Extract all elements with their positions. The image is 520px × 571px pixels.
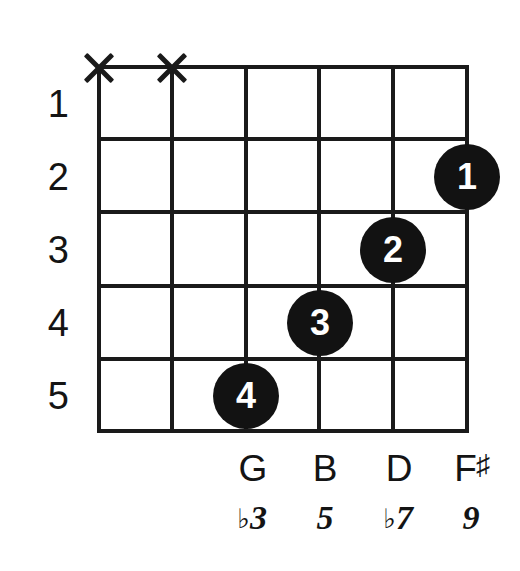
fret-number-3: 3 — [48, 231, 69, 269]
note-letter: B — [313, 448, 338, 489]
fret-line-4 — [97, 357, 469, 361]
interval-string-6: 9 — [463, 501, 480, 535]
interval-number: 7 — [396, 499, 413, 536]
fret-line-nut — [97, 65, 469, 69]
finger-dot-4[interactable]: 4 — [213, 363, 279, 429]
fret-number-1: 1 — [48, 85, 69, 123]
mute-marker-string-1 — [82, 51, 116, 85]
fret-number-4: 4 — [48, 304, 69, 342]
flat-icon: ♭ — [383, 503, 396, 534]
finger-dot-label: 1 — [457, 159, 477, 195]
note-name-string-6: F♯ — [454, 450, 490, 487]
interval-string-3: ♭3 — [237, 501, 267, 535]
interval-number: 9 — [463, 499, 480, 536]
finger-dot-2[interactable]: 2 — [360, 217, 426, 283]
fret-line-1 — [97, 137, 469, 141]
interval-string-4: 5 — [317, 501, 334, 535]
fret-number-2: 2 — [48, 158, 69, 196]
interval-number: 5 — [317, 499, 334, 536]
sharp-icon: ♯ — [476, 449, 490, 480]
string-line-4 — [317, 65, 321, 432]
note-letter: G — [239, 448, 268, 489]
flat-icon: ♭ — [237, 503, 250, 534]
mute-marker-string-2 — [155, 51, 189, 85]
finger-dot-label: 4 — [236, 378, 256, 414]
fret-line-5 — [97, 429, 469, 433]
fret-number-5: 5 — [48, 377, 69, 415]
string-line-2 — [170, 65, 174, 432]
interval-number: 3 — [250, 499, 267, 536]
note-letter: D — [386, 448, 413, 489]
note-letter: F — [454, 448, 477, 489]
note-name-string-3: G — [239, 450, 268, 487]
string-line-6 — [465, 65, 469, 432]
finger-dot-label: 2 — [383, 232, 403, 268]
fret-line-2 — [97, 210, 469, 214]
chord-diagram: 1 2 3 4 5 1 2 3 4 G B D F♯ ♭3 5 ♭7 9 — [0, 0, 520, 571]
finger-dot-3[interactable]: 3 — [287, 290, 353, 356]
finger-dot-label: 3 — [310, 305, 330, 341]
finger-dot-1[interactable]: 1 — [434, 144, 500, 210]
note-name-string-5: D — [386, 450, 413, 487]
note-name-string-4: B — [313, 450, 338, 487]
interval-string-5: ♭7 — [383, 501, 413, 535]
string-line-1 — [97, 65, 101, 432]
fret-line-3 — [97, 284, 469, 288]
